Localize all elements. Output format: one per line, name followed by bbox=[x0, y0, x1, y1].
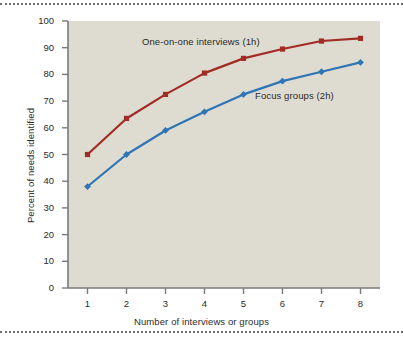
data-point-marker bbox=[280, 46, 285, 51]
x-tick-label: 7 bbox=[312, 298, 332, 309]
x-tick-label: 8 bbox=[351, 298, 371, 309]
series-label-focus-groups: Focus groups (2h) bbox=[255, 90, 334, 101]
data-point-marker bbox=[85, 152, 90, 157]
x-tick-label: 5 bbox=[234, 298, 254, 309]
x-tick-label: 6 bbox=[273, 298, 293, 309]
y-axis-title: Percent of needs identified bbox=[25, 66, 36, 266]
data-point-marker bbox=[319, 38, 324, 43]
x-tick-label: 1 bbox=[78, 298, 98, 309]
x-tick-label: 3 bbox=[156, 298, 176, 309]
y-tick-label: 0 bbox=[24, 282, 54, 293]
data-point-marker bbox=[124, 116, 129, 121]
plot-area-background bbox=[68, 21, 380, 288]
y-tick-label: 100 bbox=[24, 15, 54, 26]
y-axis-ticks bbox=[62, 21, 68, 288]
y-tick-label: 90 bbox=[24, 42, 54, 53]
x-axis-ticks bbox=[88, 288, 361, 294]
data-point-marker bbox=[241, 56, 246, 61]
data-point-marker bbox=[358, 36, 363, 41]
data-point-marker bbox=[163, 92, 168, 97]
x-axis-title: Number of interviews or groups bbox=[0, 316, 403, 327]
chart-figure: 010203040506070809010012345678 Percent o… bbox=[0, 0, 403, 339]
x-tick-label: 4 bbox=[195, 298, 215, 309]
data-point-marker bbox=[202, 70, 207, 75]
x-tick-label: 2 bbox=[117, 298, 137, 309]
line-chart-canvas bbox=[0, 0, 403, 339]
series-label-one-on-one-interviews: One-on-one interviews (1h) bbox=[142, 36, 260, 47]
